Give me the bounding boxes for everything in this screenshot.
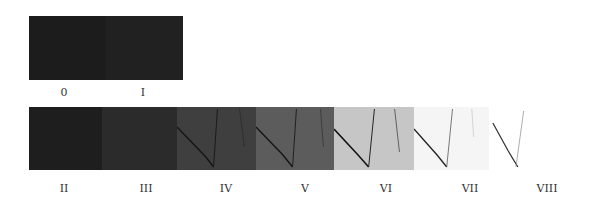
image-panel-iv — [177, 107, 256, 170]
image-panel-vii — [414, 107, 489, 170]
image-panel-ii — [29, 107, 102, 170]
image-panel-viii — [489, 107, 543, 170]
panel-label-v: V — [285, 182, 325, 195]
panel-label-vi: VI — [366, 182, 406, 195]
image-panel-i — [106, 16, 183, 80]
panel-label-0: 0 — [44, 86, 84, 99]
panel-label-i: I — [123, 86, 163, 99]
image-panel-0 — [29, 16, 106, 80]
panel-label-viii: VIII — [527, 182, 567, 195]
top-image-strip — [29, 16, 183, 80]
image-panel-iii — [102, 107, 177, 170]
image-panel-vi — [334, 107, 414, 170]
image-panel-v — [256, 107, 334, 170]
panel-label-iii: III — [126, 182, 166, 195]
panel-label-iv: IV — [206, 182, 246, 195]
panel-label-ii: II — [44, 182, 84, 195]
bottom-image-strip — [29, 107, 543, 170]
panel-label-vii: VII — [450, 182, 490, 195]
